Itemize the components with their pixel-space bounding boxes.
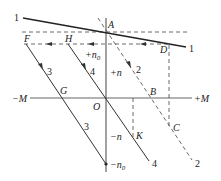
- arrow-left-icon: [140, 42, 146, 46]
- label-point-c: C: [173, 122, 180, 133]
- label-pos-n: +n: [110, 67, 122, 78]
- label-curve-4-mid: 4: [90, 66, 95, 77]
- label-point-a: A: [107, 19, 115, 30]
- point-neg-n0: [104, 162, 107, 165]
- label-pos-n0-sub: 0: [97, 54, 101, 62]
- curve-1: [23, 18, 186, 47]
- label-neg-m: −M: [12, 93, 28, 104]
- arrow-down-icon: [126, 61, 131, 68]
- label-point-k: K: [135, 130, 144, 141]
- label-neg-n0-main: −n: [110, 159, 122, 170]
- arrow-left-icon: [88, 42, 94, 46]
- label-pos-n0: +n0: [85, 49, 101, 62]
- label-point-f: F: [23, 33, 31, 44]
- label-origin: O: [93, 101, 100, 112]
- label-point-b: B: [150, 86, 156, 97]
- label-neg-n: −n: [110, 131, 122, 142]
- label-curve-4-end: 4: [152, 158, 157, 169]
- label-pos-m: +M: [194, 93, 210, 104]
- label-point-d: D: [159, 44, 168, 55]
- diagram-canvas: 1 1 2 2 3 3 4 4 A B C D F G H K O −M +M …: [0, 0, 221, 181]
- label-pos-n0-main: +n: [85, 49, 97, 60]
- label-neg-n0: −n0: [110, 159, 126, 172]
- label-curve-2-end: 2: [195, 158, 200, 169]
- label-point-h: H: [64, 33, 73, 44]
- label-curve-1-right: 1: [189, 43, 194, 54]
- label-curve-3-low: 3: [84, 121, 89, 132]
- label-neg-n0-sub: 0: [122, 164, 126, 172]
- label-curve-3-mid: 3: [47, 66, 52, 77]
- arrow-down-icon: [81, 63, 86, 70]
- label-curve-2-mid: 2: [136, 64, 141, 75]
- label-point-g: G: [60, 85, 67, 96]
- label-curve-1-left: 1: [14, 12, 19, 23]
- arrow-down-icon: [38, 63, 43, 70]
- curve-4: [68, 44, 149, 161]
- arrow-left-icon: [46, 42, 52, 46]
- mechanical-characteristic-diagram: 1 1 2 2 3 3 4 4 A B C D F G H K O −M +M …: [0, 0, 221, 181]
